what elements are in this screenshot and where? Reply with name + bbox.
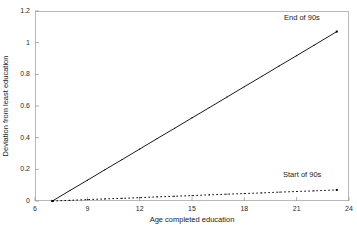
series-line-2 <box>52 190 336 201</box>
data-point-marker <box>336 31 338 33</box>
data-point-marker <box>226 194 227 195</box>
data-point-marker <box>139 197 140 198</box>
data-point-marker <box>279 192 280 193</box>
data-point-marker <box>87 180 88 181</box>
x-axis-tick-label: 6 <box>23 205 47 212</box>
annotation-start-of-90s: Start of 90s <box>283 171 321 179</box>
data-point-marker <box>192 117 193 118</box>
data-point-marker <box>51 200 53 202</box>
data-point-marker <box>87 199 88 200</box>
data-point-marker <box>157 196 158 197</box>
data-point-marker <box>122 198 123 199</box>
x-axis-tick-label: 21 <box>285 205 309 212</box>
data-point-marker <box>261 192 262 193</box>
data-point-marker <box>104 198 105 199</box>
data-point-marker <box>69 190 70 191</box>
data-point-marker <box>226 97 227 98</box>
x-axis-tick-label: 18 <box>232 205 256 212</box>
data-point-marker <box>244 193 245 194</box>
data-point-marker <box>314 45 315 46</box>
x-axis-title: Age completed education <box>35 216 349 224</box>
y-axis-title-holder: Deviation from least education <box>0 11 12 201</box>
data-point-marker <box>261 76 262 77</box>
data-point-marker <box>192 195 193 196</box>
data-point-marker <box>296 55 297 56</box>
y-axis-title: Deviation from least education <box>2 56 10 157</box>
data-point-marker <box>157 138 158 139</box>
chart-figure: 00.20.40.60.811.2 691215182124 Deviation… <box>0 0 357 233</box>
data-point-marker <box>296 191 297 192</box>
data-point-marker <box>244 86 245 87</box>
data-point-marker <box>314 190 315 191</box>
x-axis-tick-label: 9 <box>75 205 99 212</box>
data-point-marker <box>279 65 280 66</box>
x-axis-tick-label: 24 <box>337 205 357 212</box>
x-axis-tick-label: 12 <box>128 205 152 212</box>
data-point-marker <box>122 159 123 160</box>
x-axis-tick-label: 15 <box>180 205 204 212</box>
data-point-marker <box>209 107 210 108</box>
data-point-marker <box>174 196 175 197</box>
annotation-end-of-90s: End of 90s <box>284 14 320 22</box>
data-point-marker <box>139 149 140 150</box>
data-point-marker <box>174 128 175 129</box>
data-point-marker <box>69 200 70 201</box>
data-point-marker <box>209 194 210 195</box>
data-point-marker <box>104 169 105 170</box>
data-point-marker <box>336 189 338 191</box>
